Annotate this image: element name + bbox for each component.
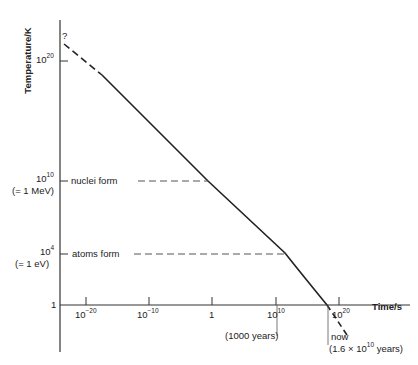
- thousand-years-label: (1000 years): [225, 330, 278, 341]
- y-tick-1e4: 104: [40, 246, 54, 257]
- curve-early-dashed: [64, 44, 102, 75]
- question-mark: ?: [62, 30, 67, 41]
- y-tick-1e10: 1010: [36, 173, 54, 184]
- y-tick-1e20: 1020: [36, 54, 54, 65]
- curve-solid: [102, 75, 327, 305]
- y-axis-label: Temperature/K: [22, 6, 33, 116]
- ev-label: (= 1 eV): [15, 258, 49, 269]
- x-tick-1: 1: [209, 309, 214, 320]
- atoms-form-label: atoms form: [72, 248, 120, 259]
- x-tick-1e-10: 10−10: [137, 309, 159, 320]
- x-axis-label: Time/s: [372, 301, 402, 312]
- x-tick-1e-20: 10−20: [75, 309, 97, 320]
- nuclei-form-label: nuclei form: [71, 175, 117, 186]
- y-tick-1: 1: [51, 299, 56, 310]
- x-tick-1e20: 1020: [332, 309, 350, 320]
- mev-label: (= 1 MeV): [12, 185, 54, 196]
- now-label: now: [331, 331, 348, 342]
- now-years-label: (1.6 × 1010 years): [329, 343, 403, 354]
- x-tick-1e10: 1010: [267, 309, 285, 320]
